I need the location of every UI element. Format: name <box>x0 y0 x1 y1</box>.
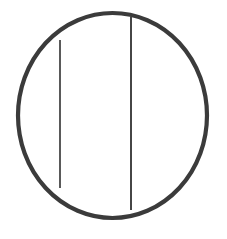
figure-canvas <box>0 0 227 239</box>
line-drawing-figure <box>0 0 227 239</box>
background-rect <box>0 0 227 239</box>
